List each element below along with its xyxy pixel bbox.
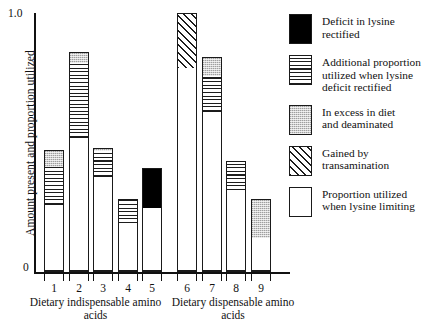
bar-2-segment-lines (70, 63, 88, 137)
legend-swatch-hatch (289, 146, 312, 176)
legend-label-line: transamination (322, 159, 389, 172)
x-axis-label-8: 8 (226, 282, 246, 294)
x-axis-tick-3-right (112, 272, 113, 281)
x-axis-label-3: 3 (93, 282, 113, 294)
bar-7 (202, 57, 222, 272)
bar-6-segment-white (178, 68, 196, 271)
bar-3 (93, 148, 113, 272)
group-caption-dispensable: Dietary dispensable amino acids (168, 296, 298, 322)
x-axis-tick-7-right (221, 272, 222, 281)
x-axis-label-7: 7 (202, 282, 222, 294)
legend-label-line: when lysine limiting (322, 200, 415, 213)
x-axis-tick-4-left (118, 272, 119, 281)
x-axis-label-9: 9 (251, 282, 271, 294)
bar-4 (118, 199, 138, 272)
legend-label-line: Additional proportion (322, 56, 421, 69)
legend-label-3: In excess in dietand deaminated (322, 105, 395, 131)
bar-5 (142, 168, 162, 272)
x-axis-tick-5-right (161, 272, 162, 281)
x-axis-tick-5-left (142, 272, 143, 281)
bar-1-segment-white (45, 205, 63, 271)
x-axis-label-4: 4 (118, 282, 138, 294)
bar-1-segment-gray (45, 151, 63, 166)
bar-5-segment-white (143, 208, 161, 271)
x-axis-tick-1-right (63, 272, 64, 281)
x-axis-tick-1-left (44, 272, 45, 281)
bar-4-segment-white (119, 223, 137, 271)
y-axis-tick-label-bottom: 0 (23, 261, 29, 273)
legend-item-3: In excess in dietand deaminated (289, 105, 425, 135)
legend-swatch-white (289, 187, 312, 217)
bar-7-segment-gray (203, 58, 221, 76)
legend-swatch-lines (289, 55, 312, 85)
x-axis-tick-9-right (270, 272, 271, 281)
bar-8-segment-lines (227, 162, 245, 190)
legend-swatch-black (289, 14, 312, 44)
x-axis-label-1: 1 (44, 282, 64, 294)
y-axis-tick-label-top: 1.0 (8, 7, 22, 19)
legend-label-4: Gained bytransamination (322, 146, 389, 172)
x-axis-tick-3-left (93, 272, 94, 281)
x-axis-tick-6-right (196, 272, 197, 281)
x-axis-tick-2-left (69, 272, 70, 281)
group-caption-indispensable: Dietary indispensable amino acids (23, 296, 168, 322)
bar-9 (251, 199, 271, 272)
legend-label-1: Deficit in lysinerectified (322, 14, 395, 40)
bar-6-segment-hatch (178, 14, 196, 68)
x-axis-tick-4-right (137, 272, 138, 281)
x-axis-label-2: 2 (69, 282, 89, 294)
legend-label-5: Proportion utilizedwhen lysine limiting (322, 187, 415, 213)
bar-3-segment-lines (94, 151, 112, 176)
x-axis-tick-8-right (245, 272, 246, 281)
x-axis-tick-7-left (202, 272, 203, 281)
bar-1 (44, 150, 64, 272)
x-axis-label-5: 5 (142, 282, 162, 294)
legend-label-2: Additional proportionutilized when lysin… (322, 55, 421, 94)
bar-4-segment-lines (119, 200, 137, 223)
legend-label-line: Gained by (322, 147, 389, 160)
chart-figure: Amount present and proportion utilized 1… (0, 0, 425, 336)
bar-8-segment-white (227, 190, 245, 271)
legend-label-line: utilized when lysine (322, 69, 421, 82)
bar-7-segment-white (203, 112, 221, 271)
legend-item-5: Proportion utilizedwhen lysine limiting (289, 187, 425, 217)
bar-1-segment-lines (45, 167, 63, 205)
legend-label-line: deficit rectified (322, 81, 421, 94)
x-axis-label-6: 6 (177, 282, 197, 294)
bar-6 (177, 13, 197, 272)
x-axis-tick-6-left (177, 272, 178, 281)
bar-5-segment-black (143, 169, 161, 207)
legend-label-line: rectified (322, 28, 395, 41)
x-axis-tick-9-left (251, 272, 252, 281)
bar-7-segment-lines (203, 76, 221, 112)
x-axis-tick-8-left (226, 272, 227, 281)
bars-plot-area (34, 13, 290, 272)
bar-2-segment-gray (70, 53, 88, 63)
legend-swatch-gray (289, 105, 312, 135)
x-axis-tick-2-right (88, 272, 89, 281)
chart-legend: Deficit in lysinerectifiedAdditional pro… (289, 14, 425, 228)
legend-label-line: Deficit in lysine (322, 15, 395, 28)
legend-label-line: In excess in diet (322, 106, 395, 119)
legend-item-2: Additional proportionutilized when lysin… (289, 55, 425, 94)
bar-8 (226, 161, 246, 272)
bar-3-segment-white (94, 177, 112, 271)
bar-9-segment-white (252, 238, 270, 271)
legend-label-line: and deaminated (322, 118, 395, 131)
bar-9-segment-gray (252, 200, 270, 238)
legend-item-1: Deficit in lysinerectified (289, 14, 425, 44)
bar-2 (69, 52, 89, 272)
bar-2-segment-white (70, 138, 88, 271)
legend-label-line: Proportion utilized (322, 188, 415, 201)
legend-item-4: Gained bytransamination (289, 146, 425, 176)
